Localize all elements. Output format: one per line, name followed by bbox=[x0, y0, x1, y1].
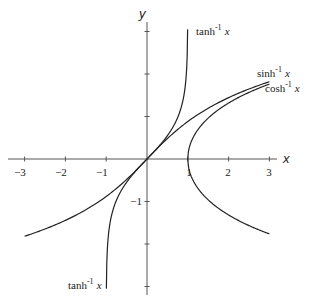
y-axis-label: y bbox=[138, 6, 147, 21]
x-tick-label-neg3: −3 bbox=[14, 166, 26, 178]
inverse-hyperbolic-functions-chart: −3 −2 −1 1 2 3 −1 x y tanh-1x sinh-1x co… bbox=[0, 0, 313, 307]
x-tick-label-neg1: −1 bbox=[96, 166, 108, 178]
x-tick-label-3: 3 bbox=[266, 166, 272, 178]
sinh-inverse-label: sinh-1x bbox=[257, 65, 290, 79]
tanh-inverse-label-top: tanh-1x bbox=[196, 23, 230, 37]
x-tick-label-2: 2 bbox=[225, 166, 231, 178]
x-tick-label-neg2: −2 bbox=[55, 166, 67, 178]
x-axis-label: x bbox=[282, 151, 290, 166]
y-tick-label-neg1: −1 bbox=[130, 195, 142, 207]
cosh-inverse-upper-branch bbox=[188, 84, 270, 159]
tanh-inverse-label-bottom: tanh-1x bbox=[68, 277, 102, 291]
cosh-inverse-label: cosh-1x bbox=[265, 80, 300, 94]
